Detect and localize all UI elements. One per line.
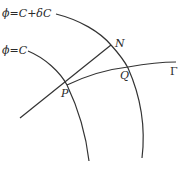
inner-surface-curve — [28, 51, 89, 161]
normal-line-pn — [20, 45, 111, 118]
outer-surface-label: ϕ=C+δC — [2, 8, 51, 19]
point-q-label: Q — [120, 70, 129, 81]
point-n-label: N — [115, 38, 125, 49]
inner-surface-label: ϕ=C — [2, 45, 27, 56]
diagram-canvas — [0, 0, 181, 171]
point-p-label: P — [61, 88, 68, 99]
level-surface-diagram: ϕ=C+δC ϕ=C P N Q Γ — [0, 0, 181, 171]
outer-surface-curve — [56, 14, 143, 158]
gamma-label: Γ — [170, 66, 178, 77]
